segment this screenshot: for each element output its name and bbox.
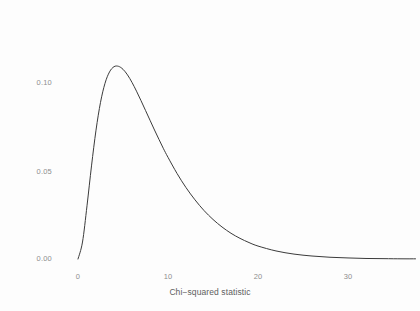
x-tick-label-30: 30 [338,272,358,281]
plot-area [0,0,420,311]
x-tick-label-10: 10 [158,272,178,281]
y-tick-label-0.05: 0.05 [24,167,52,176]
y-tick-label-0.00: 0.00 [24,254,52,263]
chi-squared-density-chart: 0.10 0.05 0.00 0 10 20 30 Chi−squared st… [0,0,420,311]
x-axis-title: Chi−squared statistic [0,287,420,297]
x-tick-label-0: 0 [68,272,88,281]
density-curve [78,66,416,259]
y-tick-label-0.10: 0.10 [24,78,52,87]
x-tick-label-20: 20 [248,272,268,281]
